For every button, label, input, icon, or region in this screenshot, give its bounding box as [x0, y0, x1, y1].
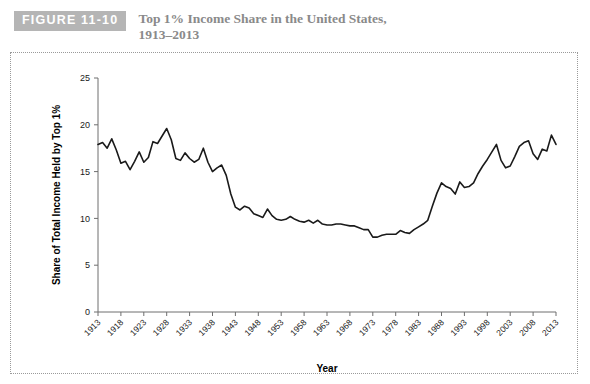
x-tick-label: 1943	[219, 317, 240, 338]
x-tick-label: 1923	[128, 317, 149, 338]
y-axis-ticks: 0510152025	[80, 73, 98, 317]
x-tick-label: 1958	[288, 317, 309, 338]
x-tick-label: 1948	[242, 317, 263, 338]
x-tick-label: 1913	[82, 317, 103, 338]
y-tick-label: 10	[80, 214, 90, 224]
x-tick-label: 2003	[494, 317, 515, 338]
x-tick-label: 1933	[174, 317, 195, 338]
figure-title-line-1: Top 1% Income Share in the United States…	[138, 11, 386, 27]
x-tick-label: 1968	[334, 317, 355, 338]
x-tick-label: 1918	[105, 317, 126, 338]
x-tick-label: 2008	[517, 317, 538, 338]
x-tick-label: 1963	[311, 317, 332, 338]
y-tick-label: 5	[85, 260, 90, 270]
x-tick-label: 1978	[380, 317, 401, 338]
chart-container: 0510152025 19131918192319281933193819431…	[0, 52, 590, 384]
line-chart: 0510152025 19131918192319281933193819431…	[0, 52, 590, 384]
x-axis-ticks: 1913191819231928193319381943194819531958…	[82, 312, 561, 338]
x-tick-label: 1928	[151, 317, 172, 338]
x-tick-label: 1988	[425, 317, 446, 338]
x-tick-label: 1938	[196, 317, 217, 338]
figure-title: Top 1% Income Share in the United States…	[138, 11, 386, 43]
x-tick-label: 1953	[265, 317, 286, 338]
figure-header: FIGURE 11-10 Top 1% Income Share in the …	[0, 0, 590, 52]
x-tick-label: 2013	[540, 317, 561, 338]
figure-title-line-2: 1913–2013	[138, 27, 386, 43]
x-tick-label: 1973	[357, 317, 378, 338]
y-tick-label: 20	[80, 120, 90, 130]
data-series-line	[98, 129, 556, 238]
y-tick-label: 0	[85, 307, 90, 317]
x-tick-label: 1983	[403, 317, 424, 338]
x-axis-title: Year	[316, 363, 337, 374]
y-tick-label: 25	[80, 73, 90, 83]
y-tick-label: 15	[80, 167, 90, 177]
x-tick-label: 1993	[448, 317, 469, 338]
x-tick-label: 1998	[471, 317, 492, 338]
figure-number-badge: FIGURE 11-10	[14, 11, 126, 31]
y-axis-title: Share of Total Income Held by Top 1%	[51, 105, 62, 285]
